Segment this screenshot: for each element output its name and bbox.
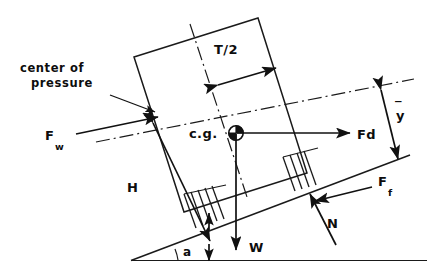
force-friction-vector <box>315 187 372 201</box>
force-drag-label: Fd <box>357 127 376 142</box>
normal-force-label: N <box>327 216 338 231</box>
incline-angle-label: a <box>183 245 191 259</box>
force-wind-vector <box>76 117 158 134</box>
contact-hatching <box>184 148 318 228</box>
incline-angle-arc <box>175 249 178 260</box>
force-friction-subscript: f <box>388 187 393 198</box>
half-thickness-label: T/2 <box>214 42 238 57</box>
diagram-canvas: center of pressure F w T/2 c.g. Fd y ‾ F… <box>0 0 430 279</box>
incline-surface <box>131 155 410 261</box>
force-wind-subscript: w <box>55 141 64 152</box>
height-label: H <box>127 180 138 195</box>
center-of-pressure-label-line2: pressure <box>31 76 93 90</box>
force-friction-label: F <box>378 174 387 189</box>
y-bar-overbar: ‾ <box>395 98 402 113</box>
weight-label: W <box>249 240 264 255</box>
center-of-gravity-label: c.g. <box>189 126 218 141</box>
force-wind-label: F <box>45 128 54 143</box>
center-of-pressure-label-line1: center of <box>20 61 84 75</box>
free-body-diagram: center of pressure F w T/2 c.g. Fd y ‾ F… <box>0 0 430 279</box>
dimension-half-thickness <box>218 68 276 85</box>
